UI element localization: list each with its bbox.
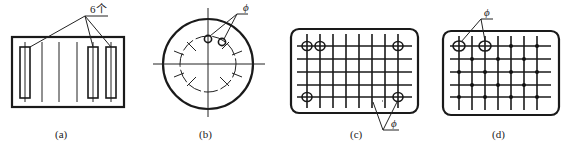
caption-a: (a) (55, 128, 68, 141)
caption-c: (c) (350, 128, 363, 141)
count-annotation: 6个 (90, 3, 107, 15)
figure-c: ϕ (c) (291, 29, 418, 141)
figure-a: 6个 (a) (12, 3, 124, 141)
diameter-annotation: ϕ (484, 6, 490, 18)
grid-lines (297, 34, 412, 108)
figure-b: ϕ (b) (153, 1, 265, 141)
caption-b: (b) (199, 128, 212, 141)
figure-d: ϕ (d) (443, 6, 559, 141)
diameter-annotation: ϕ (391, 117, 397, 129)
diameter-annotation: ϕ (243, 1, 249, 13)
diagram-canvas: 6个 (a) ϕ (b) (0, 0, 568, 153)
caption-d: (d) (492, 128, 505, 141)
